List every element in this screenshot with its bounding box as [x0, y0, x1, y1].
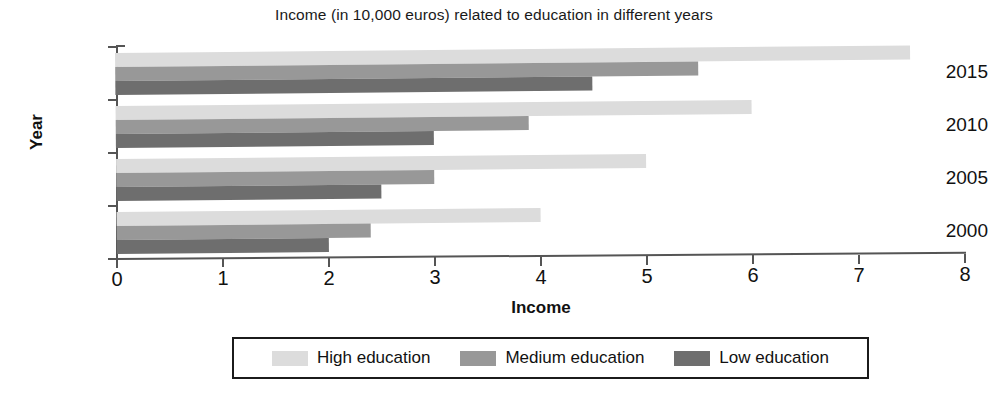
x-tick-label-4: 4: [521, 266, 561, 289]
chart-figure: Income (in 10,000 euros) related to educ…: [0, 0, 988, 404]
x-tick-label-3: 3: [415, 266, 455, 289]
legend-item-high-education[interactable]: High education: [272, 348, 430, 368]
x-tick-label-6: 6: [733, 264, 773, 287]
x-tick-mark: [222, 258, 224, 267]
x-tick-label-2: 2: [309, 267, 349, 290]
bar-2000-low-education: [117, 238, 329, 254]
legend-label: Medium education: [505, 348, 644, 368]
bar-group-2015: [115, 39, 963, 100]
legend-item-low-education[interactable]: Low education: [674, 348, 829, 368]
legend-swatch-icon: [272, 351, 308, 366]
legend-swatch-icon: [460, 351, 496, 366]
x-tick-mark: [328, 258, 330, 267]
bar-2000-medium-education: [117, 224, 372, 240]
x-tick-label-8: 8: [945, 263, 985, 286]
legend-swatch-icon: [674, 351, 710, 366]
bars-layer: [115, 39, 965, 259]
bar-group-2005: [116, 145, 964, 206]
chart-legend: High educationMedium educationLow educat…: [232, 337, 869, 379]
y-axis-title: Year: [27, 87, 47, 177]
chart-title: Income (in 10,000 euros) related to educ…: [0, 6, 988, 24]
bar-2005-low-education: [116, 184, 381, 201]
x-axis-title: Income: [117, 298, 965, 318]
bar-group-2000: [116, 198, 964, 259]
x-tick-mark: [116, 259, 118, 268]
x-tick-label-7: 7: [839, 264, 879, 287]
x-tick-label-5: 5: [627, 265, 667, 288]
bar-2005-medium-education: [116, 170, 434, 187]
x-tick-label-0: 0: [97, 268, 137, 291]
legend-label: Low education: [719, 348, 829, 368]
legend-item-medium-education[interactable]: Medium education: [460, 348, 644, 368]
bar-group-2010: [115, 92, 963, 153]
plot-area: [117, 47, 965, 259]
x-tick-label-1: 1: [203, 267, 243, 290]
bar-2010-low-education: [116, 131, 434, 148]
legend-label: High education: [317, 348, 430, 368]
